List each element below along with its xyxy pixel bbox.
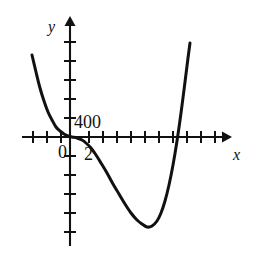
graph-figure: y x 400 0 2 [0,0,258,255]
x-value-label-2: 2 [84,144,93,164]
y-value-label-400: 400 [74,112,101,132]
function-curve [32,43,190,227]
x-axis-arrow-icon [222,132,232,143]
y-axis-label: y [46,18,56,36]
y-axis-arrow-icon [65,16,76,26]
x-axis-label: x [232,146,240,163]
coordinate-plot: y x 400 0 2 [0,0,258,255]
origin-label: 0 [58,142,67,162]
